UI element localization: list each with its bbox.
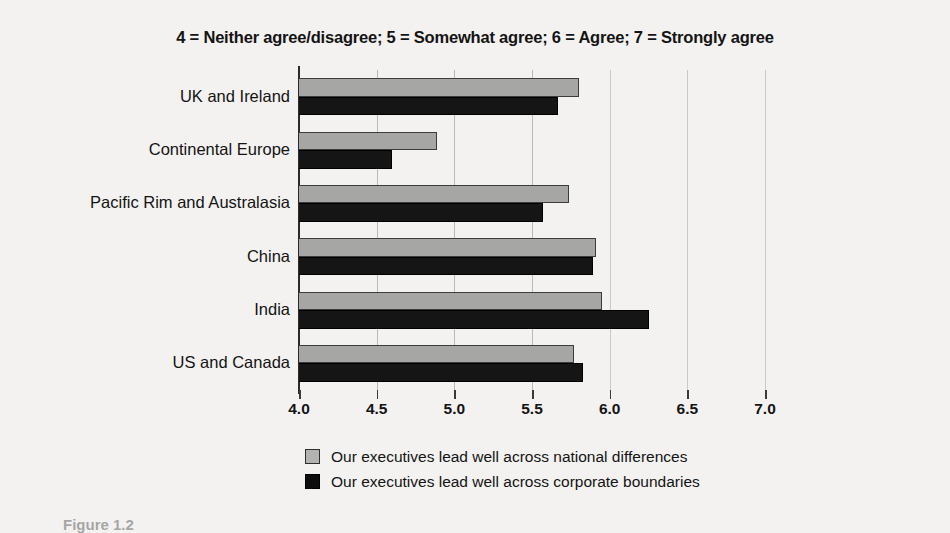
bar-national [299, 292, 602, 311]
gridline [765, 70, 766, 390]
bar-national [299, 78, 579, 97]
legend-item-national: Our executives lead well across national… [305, 444, 769, 469]
bar-corporate [299, 97, 558, 116]
category-label: Pacific Rim and Australasia [0, 193, 290, 212]
x-tick-label: 4.0 [288, 400, 310, 418]
category-label: China [0, 247, 290, 266]
bar-corporate [299, 203, 543, 222]
x-tick-label: 5.0 [444, 400, 466, 418]
category-label: Continental Europe [0, 140, 290, 159]
bar-corporate [299, 257, 593, 276]
x-tick-label: 6.5 [677, 400, 699, 418]
axis-tick [377, 390, 379, 399]
bar-national [299, 185, 569, 204]
legend-label-national: Our executives lead well across national… [331, 448, 687, 466]
chart-legend: Our executives lead well across national… [299, 444, 769, 494]
x-tick-label: 6.0 [599, 400, 621, 418]
x-tick-label: 4.5 [366, 400, 388, 418]
gridline [377, 70, 378, 390]
bar-corporate [299, 310, 649, 329]
axis-tick [687, 390, 689, 399]
bar-corporate [299, 363, 583, 382]
bar-corporate [299, 150, 392, 169]
axis-tick [765, 390, 767, 399]
axis-tick [532, 390, 534, 399]
gridline [687, 70, 688, 390]
x-tick-label: 7.0 [754, 400, 776, 418]
chart-title: 4 = Neither agree/disagree; 5 = Somewhat… [0, 28, 950, 47]
legend-label-corporate: Our executives lead well across corporat… [331, 473, 700, 491]
legend-swatch-corporate-icon [305, 474, 320, 489]
category-label: UK and Ireland [0, 87, 290, 106]
legend-swatch-national-icon [305, 449, 320, 464]
axis-tick [299, 390, 301, 399]
figure-caption: Figure 1.2 [63, 516, 134, 533]
axis-tick [454, 390, 456, 399]
bar-national [299, 345, 574, 364]
gridline [610, 70, 611, 390]
x-tick-label: 5.5 [521, 400, 543, 418]
category-label: India [0, 300, 290, 319]
category-label: US and Canada [0, 353, 290, 372]
gridline [454, 70, 455, 390]
category-axis-labels: UK and IrelandContinental EuropePacific … [0, 70, 290, 390]
plot-area: 4.04.55.05.56.06.57.0 [299, 70, 765, 390]
axis-tick [610, 390, 612, 399]
bar-national [299, 132, 437, 151]
bar-national [299, 238, 596, 257]
legend-item-corporate: Our executives lead well across corporat… [305, 469, 769, 494]
gridline [532, 70, 533, 390]
